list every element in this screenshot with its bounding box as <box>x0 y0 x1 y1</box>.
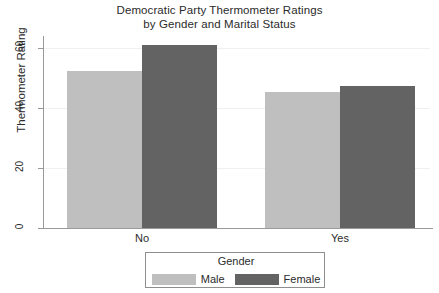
bar-yes-female <box>340 86 415 229</box>
bar-yes-male <box>265 92 340 229</box>
x-tick-label-yes: Yes <box>300 232 380 244</box>
legend-item-female[interactable]: Female <box>235 273 321 285</box>
legend-swatch-female <box>235 274 279 285</box>
x-tick-label-no: No <box>102 232 182 244</box>
chart-screenshot: Democratic Party Thermometer Ratings by … <box>0 0 439 293</box>
bar-no-male <box>67 71 142 229</box>
bar-no-female <box>142 45 217 228</box>
legend-label-female: Female <box>284 273 321 285</box>
legend: Gender MaleFemale <box>145 252 325 288</box>
bars-layer <box>0 0 439 228</box>
legend-swatch-male <box>152 274 196 285</box>
legend-label-male: Male <box>201 273 225 285</box>
y-tick-mark <box>38 228 44 229</box>
legend-title: Gender <box>146 255 326 267</box>
legend-item-male[interactable]: Male <box>152 273 225 285</box>
legend-entries: MaleFemale <box>146 271 326 287</box>
x-axis-line <box>38 228 433 229</box>
